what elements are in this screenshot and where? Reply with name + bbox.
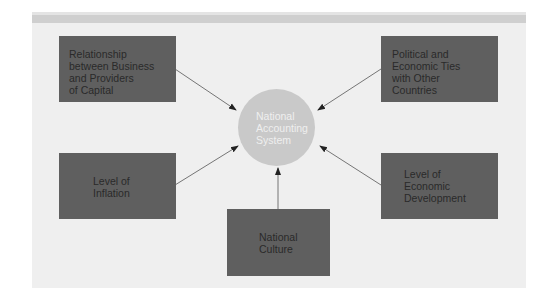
factor-line: Inflation: [93, 187, 176, 199]
factor-line: Countries: [392, 84, 498, 96]
factor-line: of Capital: [69, 84, 176, 96]
factor-line: Level of: [93, 175, 176, 187]
factor-development-node: Level of Economic Development: [381, 153, 498, 219]
factor-line: with Other: [392, 72, 498, 84]
factor-line: and Providers: [69, 72, 176, 84]
factor-line: Culture: [259, 243, 330, 255]
arrow-capital: [175, 69, 236, 110]
arrow-ties: [318, 69, 381, 110]
center-line: System: [256, 134, 315, 146]
factor-ties-node: Political and Economic Ties with Other C…: [381, 36, 498, 102]
arrow-development: [320, 146, 381, 185]
center-line: National: [256, 110, 315, 122]
factor-culture-node: National Culture: [227, 209, 330, 276]
factor-capital-node: Relationship between Business and Provid…: [59, 36, 176, 102]
factor-line: Political and: [392, 48, 498, 60]
national-accounting-system-node: National Accounting System: [238, 89, 315, 166]
factor-line: Economic Ties: [392, 60, 498, 72]
factor-line: between Business: [69, 60, 176, 72]
factor-inflation-node: Level of Inflation: [59, 153, 176, 219]
arrow-inflation: [175, 146, 238, 185]
factor-line: Relationship: [69, 48, 176, 60]
factor-line: National: [259, 231, 330, 243]
factor-line: Level of: [404, 168, 498, 180]
center-line: Accounting: [256, 122, 315, 134]
factor-line: Economic: [404, 180, 498, 192]
factor-line: Development: [404, 192, 498, 204]
